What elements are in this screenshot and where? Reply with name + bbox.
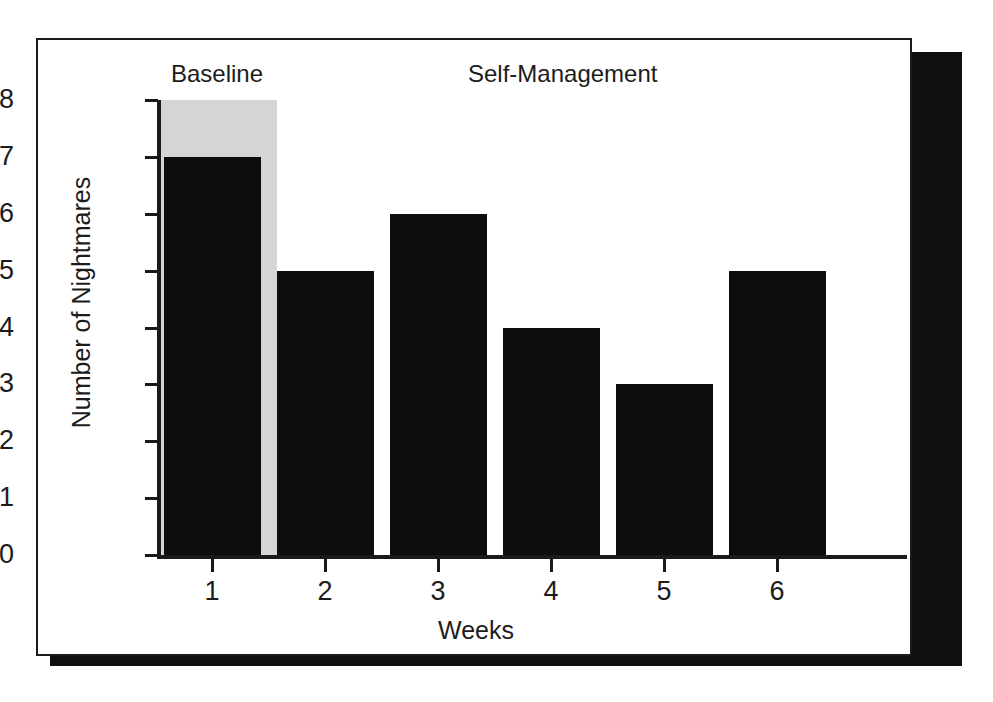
y-tick-label-0: 0 — [0, 541, 14, 568]
x-axis-line — [157, 555, 907, 559]
y-tick-5 — [145, 270, 158, 273]
y-tick-label-3: 3 — [0, 370, 14, 397]
x-tick-label-4: 4 — [521, 578, 581, 605]
y-tick-3 — [145, 383, 158, 386]
plot-area: 012345678 123456 Baseline Self-Managemen… — [38, 40, 910, 654]
y-axis-title: Number of Nightmares — [69, 123, 94, 483]
phase-label-baseline: Baseline — [171, 62, 263, 86]
y-tick-1 — [145, 497, 158, 500]
x-tick-label-5: 5 — [634, 578, 694, 605]
y-tick-label-4: 4 — [0, 314, 14, 341]
x-tick-5 — [663, 558, 666, 572]
y-tick-0 — [145, 554, 158, 557]
x-tick-1 — [211, 558, 214, 572]
x-tick-label-6: 6 — [747, 578, 807, 605]
y-tick-4 — [145, 327, 158, 330]
bar-week-5 — [616, 384, 713, 555]
x-tick-6 — [776, 558, 779, 572]
y-tick-label-6: 6 — [0, 200, 14, 227]
y-tick-label-2: 2 — [0, 427, 14, 454]
bar-week-6 — [729, 271, 826, 555]
bar-week-2 — [277, 271, 374, 555]
y-tick-8 — [145, 99, 158, 102]
x-tick-label-3: 3 — [408, 578, 468, 605]
bar-week-3 — [390, 214, 487, 555]
x-tick-2 — [324, 558, 327, 572]
y-tick-6 — [145, 213, 158, 216]
y-tick-label-1: 1 — [0, 484, 14, 511]
chart-page: 012345678 123456 Baseline Self-Managemen… — [0, 0, 993, 702]
y-tick-2 — [145, 440, 158, 443]
x-tick-label-2: 2 — [295, 578, 355, 605]
y-tick-label-5: 5 — [0, 257, 14, 284]
bar-week-4 — [503, 328, 600, 556]
y-tick-label-8: 8 — [0, 86, 14, 113]
x-tick-4 — [550, 558, 553, 572]
bar-week-1 — [164, 157, 261, 555]
x-tick-3 — [437, 558, 440, 572]
x-axis-title: Weeks — [38, 618, 914, 643]
figure-frame: 012345678 123456 Baseline Self-Managemen… — [36, 38, 912, 656]
phase-label-self-management: Self-Management — [468, 62, 657, 86]
y-tick-7 — [145, 156, 158, 159]
y-tick-label-7: 7 — [0, 143, 14, 170]
x-tick-label-1: 1 — [182, 578, 242, 605]
